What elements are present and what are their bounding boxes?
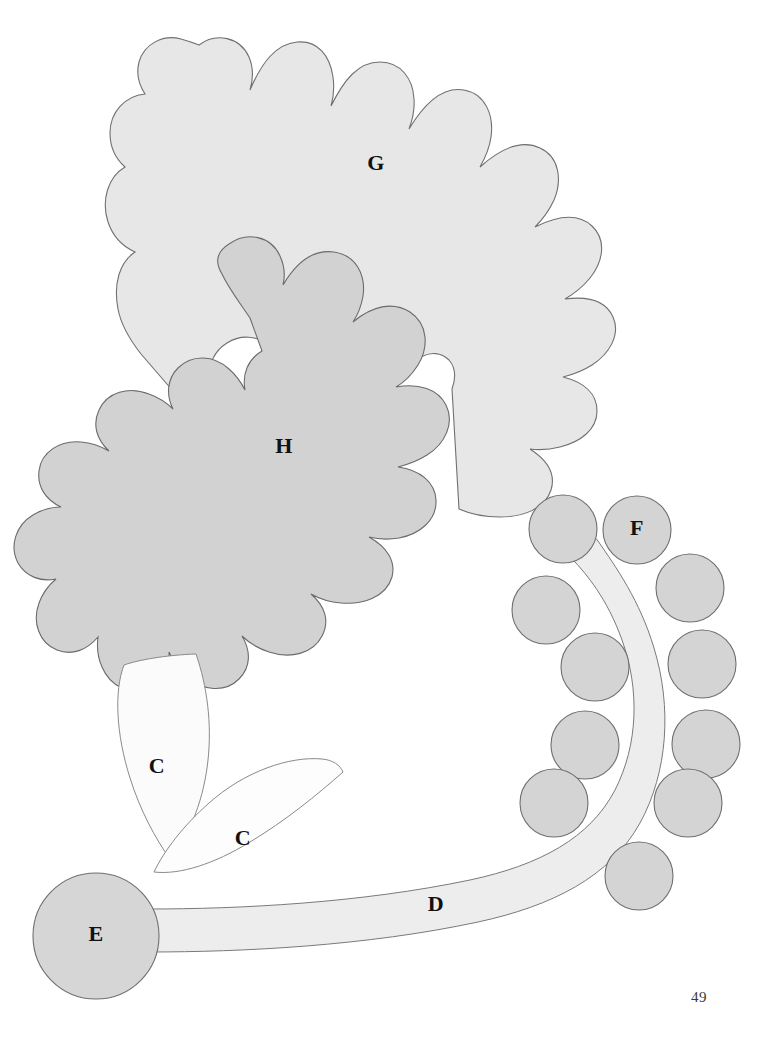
disc — [668, 630, 736, 698]
figure-canvas: G H F C C D E 49 — [0, 0, 763, 1040]
disc — [529, 495, 597, 563]
disc — [672, 710, 740, 778]
label-h: H — [275, 433, 293, 458]
label-c-upper: C — [149, 753, 165, 778]
label-c-lower: C — [235, 825, 251, 850]
disc — [520, 769, 588, 837]
page-number: 49 — [691, 989, 707, 1006]
disc — [605, 842, 673, 910]
disc — [512, 576, 580, 644]
label-e: E — [88, 921, 103, 946]
label-f: F — [630, 515, 644, 540]
diagram-svg: G H F C C D E — [0, 0, 763, 1040]
label-d: D — [428, 891, 444, 916]
label-g: G — [367, 150, 385, 175]
disc — [654, 769, 722, 837]
disc — [551, 711, 619, 779]
disc — [656, 554, 724, 622]
disc — [561, 633, 629, 701]
